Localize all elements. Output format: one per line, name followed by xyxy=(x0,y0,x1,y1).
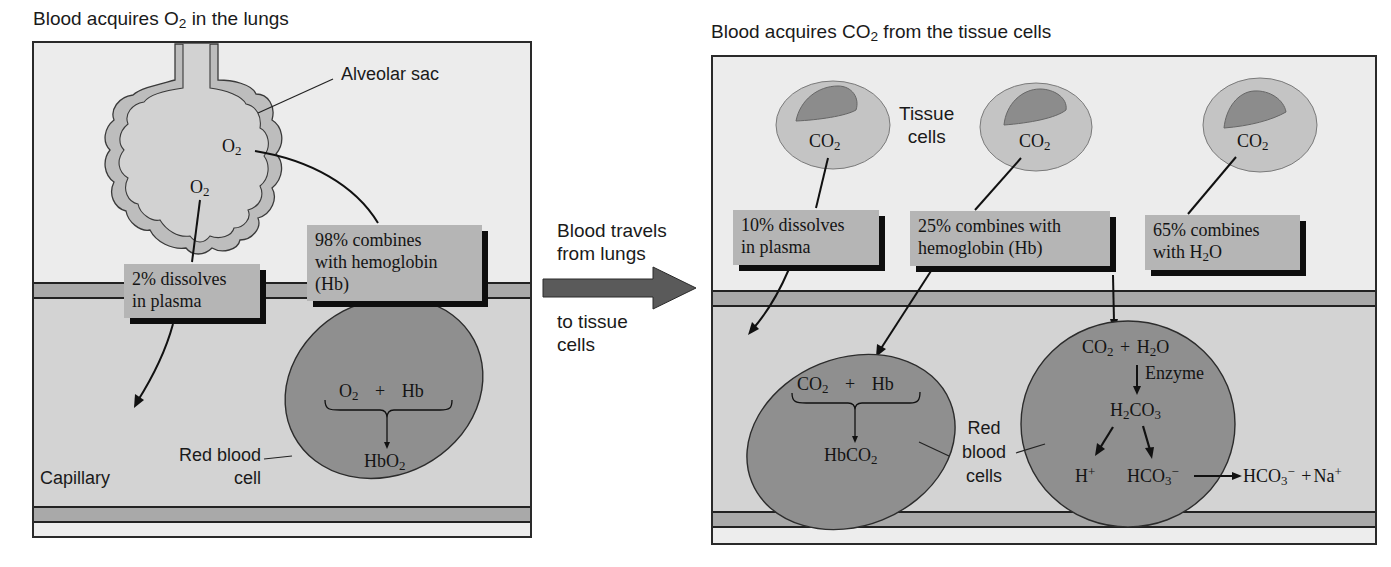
box-line: with H2O xyxy=(1153,241,1292,268)
hydrogen-ion: H+ xyxy=(1075,464,1095,487)
text: HCO xyxy=(1243,466,1281,486)
carbonic-acid: H2CO3 xyxy=(1110,400,1161,423)
product-subscript: 2 xyxy=(871,452,877,467)
plus-sign: + xyxy=(845,374,855,394)
superscript: + xyxy=(1088,464,1095,479)
tissue-cell-2 xyxy=(980,83,1092,171)
rbc-arrow-hb xyxy=(880,271,931,350)
tissue-co2-2: CO2 xyxy=(1019,131,1051,154)
co2-to-hemoglobin-line xyxy=(975,158,1021,210)
product-text: HbCO xyxy=(824,445,871,465)
text: CO xyxy=(1129,400,1154,420)
text: with H xyxy=(1153,242,1203,262)
hemoglobin-box: 25% combines with hemoglobin (Hb) xyxy=(910,211,1110,266)
plus-sign: + xyxy=(1120,337,1130,357)
plasma-arrow xyxy=(752,269,789,330)
label-line: Red xyxy=(952,416,1016,440)
co2-to-water-line xyxy=(1188,157,1236,214)
co2-subscript: 2 xyxy=(1044,138,1050,153)
co2-water-reaction: CO2 + H2O xyxy=(1082,337,1169,360)
reactant-text: Hb xyxy=(872,374,894,394)
box-line: in plasma xyxy=(741,236,871,258)
text: O xyxy=(1209,242,1222,262)
subscript: 3 xyxy=(1155,407,1161,422)
plasma-dissolve-box: 10% dissolves in plasma xyxy=(733,210,879,265)
co2-text: CO xyxy=(809,131,834,151)
reactant-text: CO xyxy=(797,374,822,394)
hbco2-product: HbCO2 xyxy=(824,445,878,468)
box-line: 65% combines xyxy=(1153,219,1292,241)
box-line: 25% combines with xyxy=(918,215,1102,237)
tissue-co2-3: CO2 xyxy=(1237,131,1269,154)
text: O xyxy=(1156,337,1169,357)
bicarbonate-inside: HCO3− xyxy=(1127,464,1179,489)
rbc-arrow-water xyxy=(1113,275,1114,322)
co2-subscript: 2 xyxy=(834,138,840,153)
label-line: cells xyxy=(952,464,1016,488)
red-blood-cell-1 xyxy=(720,324,981,560)
box-line: hemoglobin (Hb) xyxy=(918,237,1102,259)
enzyme-label: Enzyme xyxy=(1145,363,1204,384)
superscript: − xyxy=(1288,464,1295,479)
label-line: cells xyxy=(899,125,954,148)
tissue-cell-1 xyxy=(776,81,890,169)
superscript: + xyxy=(1334,464,1341,479)
subscript: 2 xyxy=(1107,344,1113,359)
tissue-cell-3 xyxy=(1203,78,1317,172)
superscript: − xyxy=(1172,464,1179,479)
tissue-cells-label: Tissue cells xyxy=(899,102,954,148)
co2-subscript: 2 xyxy=(1262,138,1268,153)
reactant-subscript: 2 xyxy=(822,381,828,396)
right-panel-graphics xyxy=(0,0,1391,567)
text: Na xyxy=(1313,466,1334,486)
text: H xyxy=(1110,400,1123,420)
water-box: 65% combines with H2O xyxy=(1145,215,1300,270)
text: CO xyxy=(1082,337,1107,357)
label-line: blood xyxy=(952,440,1016,464)
box-line: 10% dissolves xyxy=(741,214,871,236)
plus-sign: + xyxy=(1301,466,1311,486)
text: H xyxy=(1075,466,1088,486)
co2-text: CO xyxy=(1019,131,1044,151)
text: HCO xyxy=(1127,466,1165,486)
rbc-label: Red blood cells xyxy=(952,416,1016,488)
tissue-co2-1: CO2 xyxy=(809,131,841,154)
bicarbonate-plasma: HCO3− +Na+ xyxy=(1243,464,1342,489)
co2-hb-reaction: CO2 + Hb xyxy=(797,374,894,397)
text: H xyxy=(1137,337,1150,357)
co2-text: CO xyxy=(1237,131,1262,151)
label-line: Tissue xyxy=(899,102,954,125)
